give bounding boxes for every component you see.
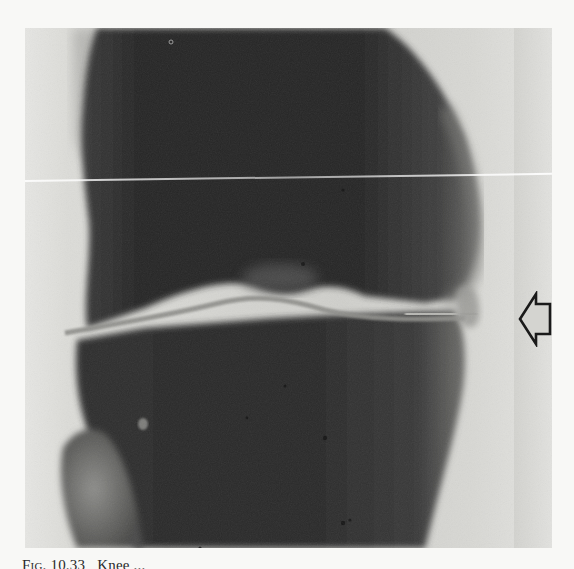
knee-xray-image bbox=[25, 28, 552, 548]
film-grain bbox=[25, 28, 552, 548]
knee-radiograph-figure bbox=[25, 28, 552, 548]
figure-label: Fig. 10.33 bbox=[22, 557, 85, 569]
arrow-left-icon bbox=[518, 291, 552, 347]
scanned-page: Fig. 10.33 Knee ... bbox=[0, 0, 574, 569]
caption-text: Knee ... bbox=[97, 557, 145, 569]
figure-caption: Fig. 10.33 Knee ... bbox=[22, 558, 145, 569]
